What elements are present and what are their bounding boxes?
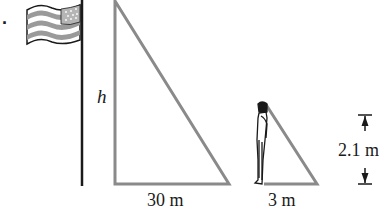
problem-marker: . — [2, 8, 7, 29]
flag-icon — [27, 5, 80, 44]
person-icon — [255, 102, 267, 184]
shadow-diagram: . h 30 m 3 m 2.1 m — [0, 0, 386, 211]
height-label-h: h — [97, 87, 107, 106]
person-height-label: 2.1 m — [338, 141, 379, 159]
flagpole-shadow-triangle — [115, 1, 229, 184]
flagpole-shadow-label: 30 m — [147, 191, 184, 209]
diagram-svg — [0, 0, 386, 211]
person-shadow-triangle — [264, 103, 317, 184]
person-shadow-label: 3 m — [268, 191, 296, 209]
